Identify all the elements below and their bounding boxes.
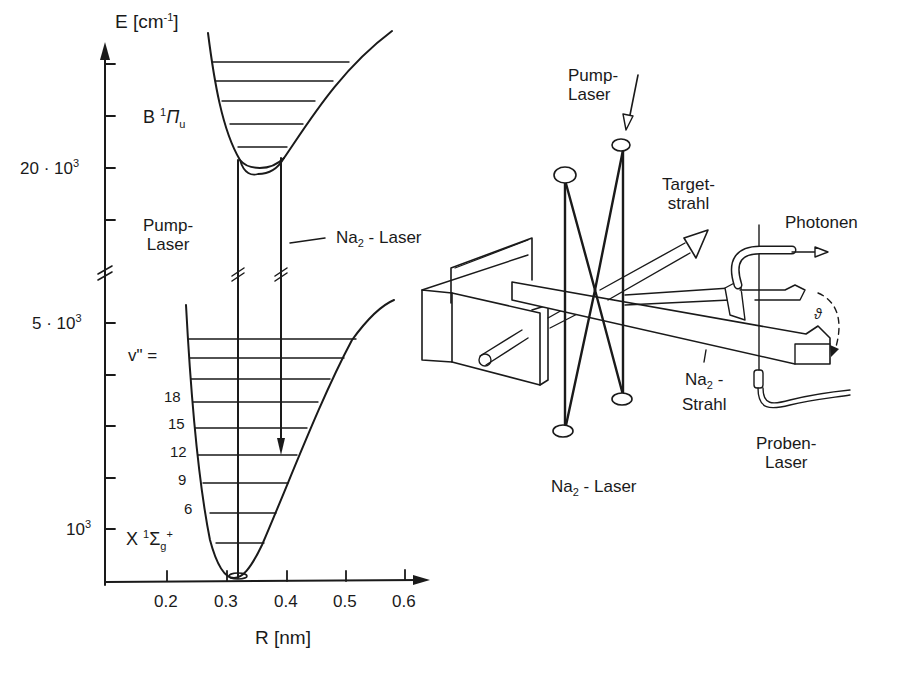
x-axis-label: R [nm] <box>255 628 311 647</box>
angle-label: ϑ <box>814 305 822 324</box>
vib-level-label: 12 <box>170 443 187 460</box>
vib-level-label: 15 <box>168 415 185 432</box>
x-tick-label: 0.6 <box>392 592 416 612</box>
x-tick-label: 0.5 <box>333 592 357 612</box>
vib-level-label: 18 <box>164 388 181 405</box>
b-state-curve <box>208 31 392 175</box>
rotation-arrow-icon <box>830 345 839 357</box>
photon-arrow-icon <box>815 247 828 257</box>
y-tick-20k: 20 · 103 <box>20 157 79 179</box>
diagram-canvas <box>0 0 898 674</box>
y-tick-1k: 103 <box>66 518 91 540</box>
x-tick-label: 0.4 <box>274 592 298 612</box>
y-axis-arrow-icon <box>100 42 110 60</box>
probe-laser-label: Proben-Laser <box>756 434 816 472</box>
pump-laser-label-right: Pump-Laser <box>568 66 618 104</box>
mirror-icon <box>612 393 632 405</box>
vib-level-label: 6 <box>184 500 192 517</box>
lower-state-label: X 1Σg+ <box>126 525 173 556</box>
na2-laser-label-left: Na2 - Laser <box>336 228 422 253</box>
pump-laser-transition <box>232 160 244 578</box>
photons-label: Photonen <box>785 213 858 232</box>
mirror-icon <box>612 139 630 151</box>
y-axis-label: E [cm-1] <box>115 8 179 31</box>
na2-beam-label: Na2 -Strahl <box>682 370 726 414</box>
apparatus-drawing <box>422 75 850 437</box>
pump-laser-arrow-icon <box>623 114 633 130</box>
y-axis <box>98 42 115 585</box>
pump-laser-label-left: Pump-Laser <box>143 216 193 254</box>
x-axis <box>105 570 430 585</box>
x-tick-label: 0.3 <box>214 592 238 612</box>
target-beam-label: Target-strahl <box>662 175 715 213</box>
x-state-curve <box>186 300 394 579</box>
x-axis-arrow-icon <box>413 575 430 585</box>
x-tick-label: 0.2 <box>154 592 178 612</box>
y-tick-5k: 5 · 103 <box>32 312 82 334</box>
vib-quantum-label: v" = <box>128 346 157 365</box>
vib-level-label: 9 <box>178 471 186 488</box>
upper-state-label: B 1Πu <box>143 103 185 134</box>
mirror-icon <box>553 425 573 437</box>
mirror-icon <box>554 167 576 183</box>
na2-laser-label-right: Na2 - Laser <box>551 477 637 502</box>
down-arrow-icon <box>277 438 285 455</box>
